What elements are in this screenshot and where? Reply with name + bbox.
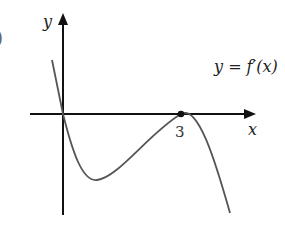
derivative-graph: ) y x 3 y = f′(x)	[0, 0, 285, 234]
tangent-point	[178, 111, 185, 118]
y-axis-arrow-icon	[58, 13, 68, 25]
partial-parenthesis: )	[0, 27, 3, 48]
curve-label: y = f′(x)	[213, 57, 278, 76]
x-axis-label: x	[248, 120, 257, 139]
tick-label-3: 3	[175, 123, 185, 141]
derivative-curve	[52, 60, 230, 213]
y-axis-label: y	[42, 12, 53, 31]
x-axis-arrow-icon	[244, 109, 256, 119]
